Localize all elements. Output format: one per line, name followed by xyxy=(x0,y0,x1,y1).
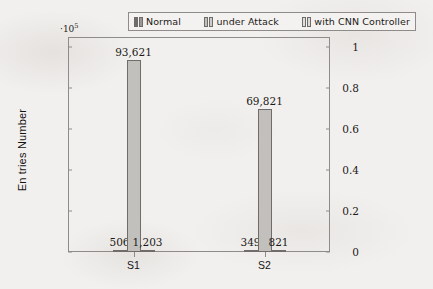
x-axis-tick-mark xyxy=(134,252,135,257)
y-axis-tick-label: 1 xyxy=(352,41,359,53)
bar xyxy=(272,250,286,252)
legend-label-normal: Normal xyxy=(146,16,181,27)
y-axis-tick-label: 0 xyxy=(352,246,359,258)
y-axis-tick-label: 0.8 xyxy=(342,82,359,94)
y-axis-multiplier-base: 10 xyxy=(63,24,74,34)
y-axis-title: En tries Number xyxy=(16,95,28,205)
plot-area-frame xyxy=(68,37,330,252)
x-axis-tick-mark xyxy=(265,252,266,257)
y-axis-multiplier-exponent: 5 xyxy=(74,22,78,30)
legend-swatch-normal xyxy=(134,17,143,27)
bar-value-label: 69,821 xyxy=(246,95,283,107)
legend-swatch-under-attack xyxy=(204,17,213,27)
bar xyxy=(244,250,258,252)
legend-label-with-cnn-controller: with CNN Controller xyxy=(314,16,410,27)
legend-entry-normal: Normal xyxy=(134,16,181,27)
bar-value-label: 821 xyxy=(268,236,288,248)
y-axis-tick-label: 0.6 xyxy=(342,123,359,135)
legend-entry-with-cnn-controller: with CNN Controller xyxy=(302,16,410,27)
legend-swatch-with-cnn-controller xyxy=(302,17,311,27)
x-axis-tick-label: S2 xyxy=(258,259,271,271)
bar-value-label: 1,203 xyxy=(132,236,162,248)
y-axis-tick-label: 0.2 xyxy=(342,205,359,217)
y-axis-tick-label: 0.4 xyxy=(342,164,359,176)
legend-label-under-attack: under Attack xyxy=(216,16,278,27)
bar xyxy=(141,250,155,252)
bar xyxy=(258,109,272,252)
bar-value-label: 93,621 xyxy=(115,46,152,58)
chart-legend: Normal under Attack with CNN Controller xyxy=(128,12,416,31)
bar xyxy=(113,250,127,252)
y-axis-multiplier: ·105 xyxy=(60,22,78,34)
legend-entry-under-attack: under Attack xyxy=(204,16,278,27)
bar xyxy=(127,60,141,252)
bar-chart-figure: Normal under Attack with CNN Controller … xyxy=(0,0,433,289)
x-axis-tick-label: S1 xyxy=(127,259,140,271)
